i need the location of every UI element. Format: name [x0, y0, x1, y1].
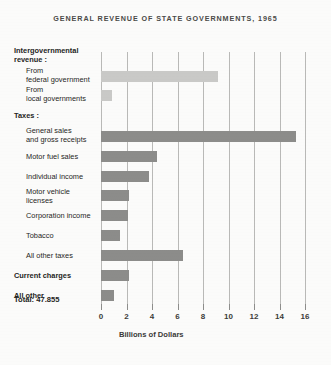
- tick-mark: [305, 304, 306, 310]
- label-line: All other taxes: [26, 251, 73, 260]
- x-tick-label: 12: [250, 312, 259, 321]
- bar: [101, 190, 129, 201]
- label-line: Motor fuel sales: [26, 152, 78, 161]
- label-line: Tobacco: [26, 231, 54, 240]
- bar: [101, 290, 114, 301]
- tick-mark: [127, 304, 128, 310]
- tick-mark: [101, 304, 102, 310]
- bar: [101, 131, 296, 142]
- x-tick-label: 16: [301, 312, 310, 321]
- x-tick-label: 2: [124, 312, 128, 321]
- page-title: GENERAL REVENUE OF STATE GOVERNMENTS, 19…: [0, 14, 331, 23]
- label-line: Motor vehicle: [26, 187, 70, 196]
- bar: [101, 71, 218, 82]
- category-label: Fromfederal government: [26, 66, 90, 84]
- category-label: Corporation income: [26, 211, 91, 220]
- tick-mark: [280, 304, 281, 310]
- category-label: All other taxes: [26, 251, 73, 260]
- bar: [101, 90, 112, 101]
- tick-mark: [254, 304, 255, 310]
- category-label: Motor vehiclelicenses: [26, 187, 70, 205]
- label-line: From: [26, 66, 90, 75]
- gridline: [178, 52, 179, 304]
- label-line: Current charges: [14, 271, 71, 280]
- bar: [101, 270, 129, 281]
- bar: [101, 250, 183, 261]
- group-heading: Intergovernmentalrevenue :: [14, 46, 78, 64]
- label-line: Intergovernmental: [14, 46, 78, 55]
- tick-mark: [178, 304, 179, 310]
- plot-area: 0246810121416: [101, 52, 305, 304]
- x-axis-label: Billions of Dollars: [119, 330, 184, 339]
- x-tick-label: 0: [99, 312, 103, 321]
- label-line: licenses: [26, 196, 70, 205]
- label-line: Corporation income: [26, 211, 91, 220]
- bar: [101, 151, 157, 162]
- category-label: Current charges: [14, 271, 71, 280]
- x-tick-label: 4: [150, 312, 154, 321]
- gridline: [254, 52, 255, 304]
- x-tick-label: 6: [175, 312, 179, 321]
- category-label: General salesand gross receipts: [26, 126, 86, 144]
- x-tick-label: 14: [275, 312, 284, 321]
- total-label: Total: 47.855: [14, 295, 59, 304]
- label-line: General sales: [26, 126, 86, 135]
- label-line: From: [26, 85, 86, 94]
- category-label: Fromlocal governments: [26, 85, 86, 103]
- category-label: Motor fuel sales: [26, 152, 78, 161]
- bar: [101, 210, 128, 221]
- gridline: [280, 52, 281, 304]
- gridline: [203, 52, 204, 304]
- label-line: and gross receipts: [26, 135, 86, 144]
- tick-mark: [152, 304, 153, 310]
- group-heading: Taxes :: [14, 111, 39, 120]
- tick-mark: [203, 304, 204, 310]
- bar: [101, 171, 149, 182]
- x-tick-label: 10: [224, 312, 233, 321]
- label-line: Individual income: [26, 172, 83, 181]
- x-tick-label: 8: [201, 312, 205, 321]
- category-label: Individual income: [26, 172, 83, 181]
- category-label: Tobacco: [26, 231, 54, 240]
- label-line: federal government: [26, 75, 90, 84]
- chart-page: GENERAL REVENUE OF STATE GOVERNMENTS, 19…: [0, 0, 331, 365]
- label-line: local governments: [26, 94, 86, 103]
- gridline: [305, 52, 306, 304]
- label-line: Taxes :: [14, 111, 39, 120]
- tick-mark: [229, 304, 230, 310]
- bar: [101, 230, 120, 241]
- gridline: [229, 52, 230, 304]
- label-line: revenue :: [14, 55, 78, 64]
- gridline: [152, 52, 153, 304]
